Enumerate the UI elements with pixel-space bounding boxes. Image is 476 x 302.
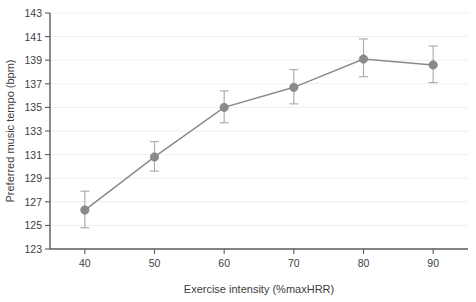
- y-tick-label: 139: [24, 54, 42, 66]
- data-point-marker: [150, 153, 158, 161]
- x-tick-label: 80: [358, 257, 370, 269]
- x-tick-label: 50: [149, 257, 161, 269]
- y-axis-title: Preferred music tempo (bpm): [4, 59, 16, 202]
- y-tick-label: 141: [24, 31, 42, 43]
- y-tick-label: 123: [24, 243, 42, 255]
- data-point-marker: [81, 206, 89, 214]
- x-tick-label: 60: [218, 257, 230, 269]
- chart-figure: 123125127129131133135137139141143 405060…: [0, 0, 476, 302]
- y-tick-label: 131: [24, 149, 42, 161]
- x-tick-label: 40: [79, 257, 91, 269]
- y-tick-label: 125: [24, 219, 42, 231]
- y-tick-label: 135: [24, 101, 42, 113]
- line-chart: 123125127129131133135137139141143 405060…: [0, 0, 476, 302]
- y-tick-label: 143: [24, 7, 42, 19]
- x-tick-label: 70: [288, 257, 300, 269]
- y-tick-label: 133: [24, 125, 42, 137]
- y-tick-label: 127: [24, 196, 42, 208]
- data-point-marker: [359, 55, 367, 63]
- data-point-marker: [429, 61, 437, 69]
- chart-background: [0, 0, 476, 302]
- data-point-marker: [220, 103, 228, 111]
- x-axis-title: Exercise intensity (%maxHRR): [184, 283, 334, 295]
- data-point-marker: [290, 83, 298, 91]
- y-tick-label: 129: [24, 172, 42, 184]
- x-tick-label: 90: [427, 257, 439, 269]
- y-tick-label: 137: [24, 78, 42, 90]
